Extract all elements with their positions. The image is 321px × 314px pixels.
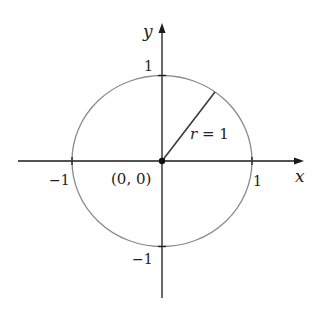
tick-label-y-pos: 1 <box>144 58 153 74</box>
radius-label: r = 1 <box>190 125 229 143</box>
radius-eq: = 1 <box>197 125 229 143</box>
y-axis-arrow-icon <box>159 23 166 33</box>
tick-label-y-neg: −1 <box>132 251 153 267</box>
origin-label: (0, 0) <box>111 170 151 188</box>
tick-label-x-pos: 1 <box>253 173 262 189</box>
unit-circle-diagram: y x 1 −1 −1 1 (0, 0) r = 1 <box>0 0 321 314</box>
x-axis-label: x <box>295 166 305 186</box>
y-axis-label: y <box>142 21 153 41</box>
x-axis-arrow-icon <box>294 158 304 165</box>
tick-label-x-neg: −1 <box>49 172 70 188</box>
origin-point <box>159 158 165 164</box>
